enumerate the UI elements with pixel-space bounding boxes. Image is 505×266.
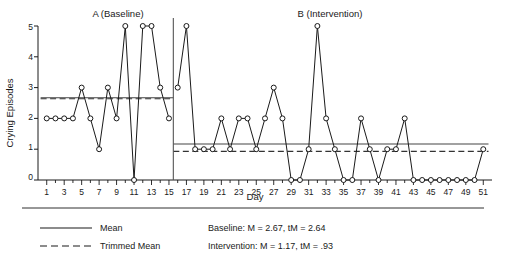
data-point	[306, 147, 311, 152]
data-point	[158, 85, 163, 90]
reference-lines	[41, 98, 489, 152]
data-point	[201, 147, 206, 152]
x-tick-label: 23	[234, 187, 244, 197]
x-tick-label: 33	[321, 187, 331, 197]
data-point	[428, 178, 433, 183]
data-point	[44, 116, 49, 121]
data-point	[149, 24, 154, 29]
data-point	[123, 24, 128, 29]
x-tick-label: 5	[79, 187, 84, 197]
data-point	[376, 178, 381, 183]
data-point	[70, 116, 75, 121]
data-point	[481, 147, 486, 152]
legend-mean-label: Mean	[100, 223, 123, 233]
data-point	[280, 116, 285, 121]
x-tick-label: 17	[182, 187, 192, 197]
x-tick-label: 9	[114, 187, 119, 197]
data-point	[411, 178, 416, 183]
x-tick-label: 35	[339, 187, 349, 197]
x-tick-label: 13	[147, 187, 157, 197]
data-point	[193, 147, 198, 152]
x-tick-label: 11	[130, 187, 139, 197]
y-axis-title: Crying Episodes	[4, 78, 15, 147]
data-point	[210, 147, 215, 152]
x-tick-label: 15	[164, 187, 174, 197]
x-tick-label: 39	[374, 187, 384, 197]
data-point	[289, 178, 294, 183]
y-tick-label-1: 1	[28, 142, 33, 152]
x-tick-label: 47	[444, 187, 454, 197]
data-point	[105, 85, 110, 90]
data-point	[385, 147, 390, 152]
x-tick-label: 51	[479, 187, 489, 197]
x-tick-label: 29	[286, 187, 296, 197]
x-tick-label: 27	[269, 187, 279, 197]
data-point	[175, 85, 180, 90]
data-point	[402, 116, 407, 121]
chart-axes	[34, 26, 492, 185]
data-point	[463, 178, 468, 183]
data-point	[88, 116, 93, 121]
data-point	[472, 178, 477, 183]
data-point	[245, 116, 250, 121]
x-tick-label: 21	[217, 187, 227, 197]
data-point	[53, 116, 58, 121]
data-point	[437, 178, 442, 183]
x-tick-label: 43	[409, 187, 419, 197]
data-point	[228, 147, 233, 152]
data-point	[184, 24, 189, 29]
data-point	[263, 116, 268, 121]
y-tick-label-3: 3	[28, 82, 33, 92]
data-point	[315, 24, 320, 29]
stat-intervention: Intervention: M = 1.17, tM = .93	[208, 241, 333, 251]
single-case-design-chart: Crying Episodes 5 4 3 2 1 0 A (Baseline)…	[0, 0, 505, 266]
data-point	[114, 116, 119, 121]
y-tick-label-4: 4	[28, 52, 33, 62]
x-tick-label: 45	[426, 187, 436, 197]
data-point	[332, 147, 337, 152]
data-point	[350, 178, 355, 183]
x-tick-label: 1	[44, 187, 49, 197]
data-point	[97, 147, 102, 152]
phase-a-title: A (Baseline)	[92, 8, 143, 19]
x-tick-label: 41	[391, 187, 401, 197]
data-point	[62, 116, 67, 121]
data-point	[254, 147, 259, 152]
x-tick-label: 7	[97, 187, 102, 197]
x-tick-label: 3	[62, 187, 67, 197]
series-line-baseline	[47, 26, 169, 180]
data-point	[367, 147, 372, 152]
y-tick-label-5: 5	[28, 22, 33, 32]
phase-b-title: B (Intervention)	[298, 8, 363, 19]
legend-trimmed-mean-label: Trimmed Mean	[100, 241, 160, 251]
series-line-intervention	[178, 26, 484, 180]
data-point	[420, 178, 425, 183]
x-tick-label: 31	[304, 187, 314, 197]
y-tick-label-2: 2	[28, 112, 33, 122]
data-point	[359, 116, 364, 121]
data-point	[324, 116, 329, 121]
data-point	[166, 116, 171, 121]
x-tick-labels: 1357911131517192123252729313335373941434…	[44, 187, 488, 197]
data-series	[44, 24, 486, 183]
data-point	[393, 147, 398, 152]
x-tick-label: 25	[252, 187, 262, 197]
x-tick-label: 49	[461, 187, 471, 197]
data-point	[140, 24, 145, 29]
y-tick-label-0: 0	[28, 172, 33, 182]
data-point	[446, 178, 451, 183]
data-point	[455, 178, 460, 183]
stat-baseline: Baseline: M = 2.67, tM = 2.64	[208, 223, 326, 233]
x-tick-label: 37	[356, 187, 366, 197]
data-point	[236, 116, 241, 121]
data-point	[271, 85, 276, 90]
data-point	[341, 178, 346, 183]
data-point	[219, 116, 224, 121]
data-point	[297, 178, 302, 183]
x-tick-label: 19	[199, 187, 209, 197]
data-point	[132, 178, 137, 183]
chart-canvas: Crying Episodes 5 4 3 2 1 0 A (Baseline)…	[0, 0, 505, 266]
data-point	[79, 85, 84, 90]
